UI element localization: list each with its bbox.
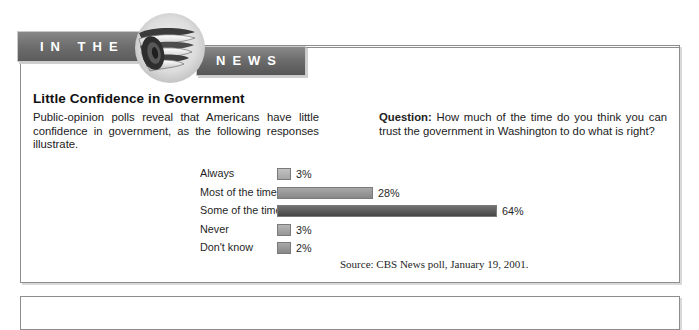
banner-right-label: NEWS — [216, 52, 283, 70]
chart-row: Never 3% — [200, 222, 630, 241]
chart-row: Always 3% — [200, 166, 630, 185]
chart-row: Most of the time 28% — [200, 185, 630, 204]
article-lede: Public-opinion polls reveal that America… — [33, 111, 319, 152]
chart-bar-wrap: 2% — [277, 242, 291, 254]
rolled-newspaper-icon — [131, 9, 209, 87]
chart-value-label: 28% — [378, 187, 400, 199]
chart-category-label: Don't know — [200, 241, 272, 253]
chart-bar-wrap: 3% — [277, 224, 291, 236]
chart-row: Don't know 2% — [200, 240, 630, 259]
chart-bar — [277, 242, 291, 254]
chart-bar — [277, 168, 291, 180]
poll-results-chart: Always 3% Most of the time 28% Some of t… — [200, 166, 630, 259]
chart-source-note: Source: CBS News poll, January 19, 2001. — [340, 258, 529, 270]
chart-bar — [277, 205, 497, 217]
chart-bar-wrap: 28% — [277, 187, 373, 199]
chart-category-label: Most of the time — [200, 186, 272, 198]
poll-question-label: Question: — [379, 111, 432, 123]
chart-bar-wrap: 64% — [277, 205, 497, 217]
banner-horizontal-rule — [305, 47, 680, 48]
article-headline: Little Confidence in Government — [33, 91, 245, 106]
chart-value-label: 2% — [296, 242, 312, 254]
in-the-news-banner: IN THE NEWS — [0, 0, 699, 90]
poll-question: Question: How much of the time do you th… — [379, 111, 667, 138]
chart-value-label: 3% — [296, 168, 312, 180]
chart-row: Some of the time 64% — [200, 203, 630, 222]
next-section-box — [20, 296, 680, 330]
chart-value-label: 64% — [502, 205, 524, 217]
chart-bar-wrap: 3% — [277, 168, 291, 180]
banner-left-label: IN THE — [40, 38, 125, 56]
chart-value-label: 3% — [296, 224, 312, 236]
chart-bar — [277, 187, 373, 199]
chart-category-label: Always — [200, 167, 272, 179]
banner-bar-right: NEWS — [196, 46, 306, 76]
chart-bar — [277, 224, 291, 236]
chart-category-label: Some of the time — [200, 204, 272, 216]
chart-category-label: Never — [200, 223, 272, 235]
